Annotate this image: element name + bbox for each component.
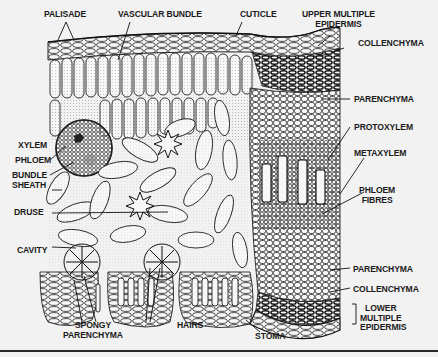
- label-upper-multiple-epidermis: UPPER MULTIPLE EPIDERMIS: [302, 10, 375, 29]
- label-metaxylem: METAXYLEM: [354, 149, 406, 159]
- label-lower-line3: EPIDERMIS: [360, 323, 406, 333]
- label-bundle-sheath-line2: SHEATH: [12, 181, 47, 191]
- label-upper-multiple-epidermis-line2: EPIDERMIS: [302, 20, 375, 30]
- label-collenchyma-bottom: COLLENCHYMA: [353, 285, 419, 295]
- label-cuticle: CUTICLE: [240, 10, 277, 20]
- label-protoxylem: PROTOXYLEM: [354, 123, 413, 133]
- figure-bottom-rule: [0, 350, 438, 352]
- upper-epidermis: [48, 27, 340, 60]
- label-spongy-parenchyma: SPONGY PARENCHYMA: [63, 321, 123, 340]
- label-hairs: HAIRS: [177, 321, 203, 331]
- leaf-cross-section-diagram: PALISADE VASCULAR BUNDLE CUTICLE UPPER M…: [0, 0, 438, 357]
- label-palisade: PALISADE: [44, 10, 86, 20]
- label-phloem-fibres-line2: FIBRES: [359, 196, 395, 206]
- label-bundle-sheath: BUNDLE SHEATH: [12, 171, 47, 190]
- label-cavity: CAVITY: [17, 246, 47, 256]
- label-parenchyma-bottom: PARENCHYMA: [353, 265, 413, 275]
- label-vascular-bundle: VASCULAR BUNDLE: [118, 10, 202, 20]
- label-collenchyma-top: COLLENCHYMA: [358, 39, 424, 49]
- label-xylem: XYLEM: [18, 141, 47, 151]
- label-druse: DRUSE: [14, 208, 44, 218]
- label-phloem: PHLOEM: [15, 156, 51, 166]
- label-phloem-fibres: PHLOEM FIBRES: [359, 186, 395, 205]
- label-parenchyma-top: PARENCHYMA: [354, 95, 414, 105]
- label-stoma: STOMA: [255, 332, 285, 342]
- label-lower-multiple-epidermis: LOWER MULTIPLE EPIDERMIS: [360, 304, 406, 333]
- label-spongy-line2: PARENCHYMA: [63, 331, 123, 341]
- midrib: [250, 88, 340, 302]
